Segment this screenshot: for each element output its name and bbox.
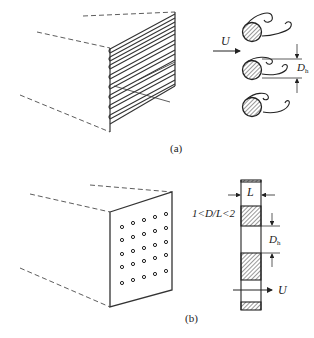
perforated-plate-face — [110, 192, 172, 307]
dh-label-a: Dh — [297, 61, 308, 75]
diagram-canvas — [0, 0, 314, 338]
panel-a-cylinders — [243, 13, 292, 116]
dashed-edge-top-back — [90, 185, 172, 192]
rod-bundle — [109, 14, 175, 124]
dh-label-b: Dh — [269, 233, 280, 247]
ratio-label: 1<D/L<2 — [192, 207, 235, 219]
plate-solid-2 — [241, 253, 261, 280]
plate-solid-3 — [241, 302, 261, 310]
dh-label-b-main: D — [269, 233, 277, 245]
cylinder-1 — [243, 23, 262, 42]
plate-solid-1 — [241, 206, 261, 226]
panel-b-duct — [20, 185, 172, 307]
flow-label-b: U — [278, 283, 287, 298]
dh-label-a-main: D — [297, 61, 305, 73]
dh-label-a-sub: h — [305, 67, 309, 75]
dashed-edge-top-front — [30, 194, 110, 212]
panel-a-duct — [20, 12, 175, 132]
cylinder-3 — [243, 98, 262, 117]
dashed-edge-bottom — [20, 268, 110, 307]
cylinder-2 — [243, 61, 262, 80]
dashed-edge-bottom — [20, 95, 110, 132]
flow-label-a: U — [221, 34, 230, 49]
thickness-label-L: L — [247, 185, 254, 200]
dashed-edge-top-front — [37, 32, 110, 48]
dashed-edge-top-back — [83, 12, 175, 16]
caption-b: (b) — [185, 312, 198, 324]
dh-label-b-sub: h — [277, 239, 281, 247]
dh-dimension-a — [262, 44, 302, 93]
caption-a: (a) — [170, 142, 182, 154]
